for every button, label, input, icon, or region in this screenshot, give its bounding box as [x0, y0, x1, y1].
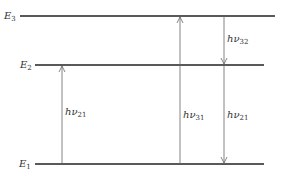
energy-level-diagram: E3 E2 E1 hν21 hν31 hν32 hν21: [0, 0, 284, 179]
level-e2-label: E2: [20, 60, 32, 72]
level-e1-label: E1: [19, 159, 31, 171]
level-e3-label: E3: [4, 11, 16, 23]
transition-arrow-31-up: [177, 17, 183, 164]
transition-label-21-up: hν21: [65, 107, 86, 119]
diagram-canvas: [0, 0, 284, 179]
transition-label-21-down: hν21: [227, 110, 248, 122]
transition-label-32-down: hν32: [227, 34, 248, 46]
transition-label-31-up: hν31: [183, 110, 204, 122]
